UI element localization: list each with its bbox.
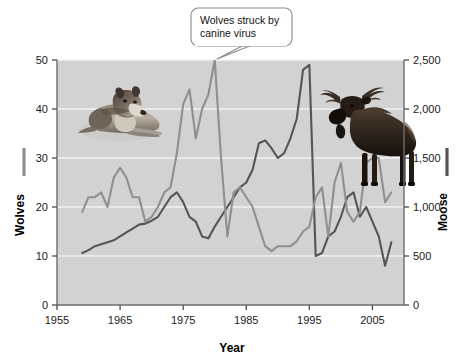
- callout-tail: [217, 45, 252, 59]
- left-axis-title: Wolves: [13, 194, 27, 236]
- callout-text-line1: Wolves struck by: [200, 14, 280, 26]
- tick-label: 0: [42, 299, 48, 311]
- wolf-moose-population-chart: 01020304050 05001,0001,5002,0002,500 195…: [0, 0, 470, 360]
- tick-label: 10: [36, 250, 48, 262]
- tick-label: 0: [413, 299, 419, 311]
- tick-label: 2005: [360, 314, 384, 326]
- left-axis: 01020304050: [36, 54, 57, 311]
- chart-canvas: 01020304050 05001,0001,5002,0002,500 195…: [0, 0, 470, 360]
- tick-label: 500: [413, 250, 431, 262]
- tick-label: 1995: [297, 314, 321, 326]
- tick-label: 1955: [45, 314, 69, 326]
- bottom-axis: 195519651975198519952005: [45, 305, 385, 326]
- tick-label: 1965: [108, 314, 132, 326]
- tick-label: 2,000: [413, 103, 441, 115]
- tick-label: 1985: [234, 314, 258, 326]
- canine-virus-callout: Wolves struck by canine virus: [191, 8, 292, 59]
- tick-label: 40: [36, 103, 48, 115]
- tick-label: 50: [36, 54, 48, 66]
- tick-label: 20: [36, 201, 48, 213]
- callout-text-line2: canine virus: [200, 27, 256, 39]
- tick-label: 1975: [171, 314, 195, 326]
- right-axis-title: Moose: [436, 193, 450, 231]
- x-axis-title: Year: [219, 341, 245, 355]
- tick-label: 2,500: [413, 54, 441, 66]
- tick-label: 30: [36, 152, 48, 164]
- tick-label: 1,500: [413, 152, 441, 164]
